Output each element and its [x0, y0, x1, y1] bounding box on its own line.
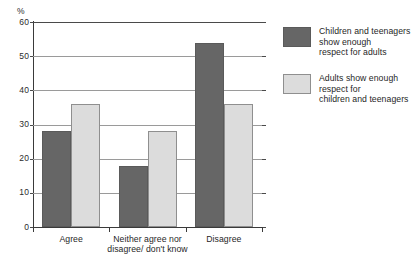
y-axis-tick-right: [262, 22, 266, 23]
plot-area: [33, 22, 262, 227]
y-axis-tick-label: 50: [3, 52, 29, 61]
y-axis-tick-right: [262, 125, 266, 126]
y-axis-tick-right: [262, 90, 266, 91]
y-axis-tick-labels: 0102030405060: [0, 22, 29, 227]
y-axis-tick: [30, 193, 33, 194]
grouped-bar-chart: % 0102030405060 Children and teenagers s…: [0, 0, 411, 271]
y-axis-tick-label: 10: [3, 188, 29, 197]
y-axis-tick: [30, 22, 33, 23]
y-axis-tick-right: [262, 56, 266, 57]
gridline: [33, 90, 262, 91]
y-axis-tick: [30, 90, 33, 91]
y-axis-tick: [30, 125, 33, 126]
x-axis-line: [33, 227, 263, 228]
legend-label: Children and teenagers show enough respe…: [319, 26, 411, 58]
y-axis-unit-label: %: [17, 7, 25, 16]
legend-swatch: [283, 27, 311, 47]
y-axis-tick-label: 60: [3, 18, 29, 27]
bar: [42, 131, 71, 227]
y-axis-tick-label: 0: [3, 223, 29, 232]
y-axis-tick: [30, 56, 33, 57]
y-axis-tick-label: 30: [3, 120, 29, 129]
bar: [148, 131, 177, 227]
x-axis-tick: [186, 227, 187, 232]
x-axis-tick: [33, 227, 34, 232]
bar: [119, 166, 148, 228]
legend-entry: Adults show enough respect for children …: [283, 73, 411, 107]
y-axis-tick: [30, 159, 33, 160]
legend-label: Adults show enough respect for children …: [319, 73, 411, 105]
chart-legend: Children and teenagers show enough respe…: [283, 26, 411, 120]
y-axis-tick-right: [262, 193, 266, 194]
gridline: [33, 56, 262, 57]
legend-swatch: [283, 74, 311, 94]
bar: [224, 104, 253, 227]
x-axis-tick: [109, 227, 110, 232]
x-axis-tick: [262, 227, 263, 232]
y-axis-tick-label: 20: [3, 154, 29, 163]
gridline: [33, 22, 262, 23]
y-axis-tick-right: [262, 159, 266, 160]
bar: [71, 104, 100, 227]
x-axis-group-label: Disagree: [176, 234, 272, 244]
y-axis-tick-label: 40: [3, 86, 29, 95]
bar: [195, 43, 224, 228]
legend-entry: Children and teenagers show enough respe…: [283, 26, 411, 60]
